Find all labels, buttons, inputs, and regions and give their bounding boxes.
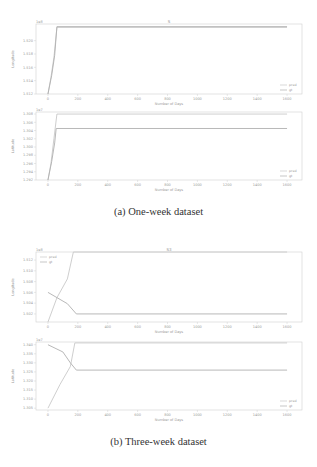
- x-tick-label: 1000: [193, 97, 202, 101]
- x-tick-label: 0: [47, 325, 49, 329]
- y-tick-label: 1.310: [23, 397, 33, 401]
- plot-frame: [36, 342, 302, 410]
- y-tick-label: 1.315: [23, 388, 33, 392]
- x-tick-label: 1400: [253, 183, 262, 187]
- y-tick-label: 1.340: [23, 343, 33, 347]
- series-gt: [48, 128, 287, 180]
- x-tick-label: 400: [104, 183, 111, 187]
- x-tick-label: 800: [164, 183, 171, 187]
- x-tick-label: 800: [164, 413, 171, 417]
- x-tick-label: 1400: [253, 97, 262, 101]
- x-tick-label: 1000: [193, 325, 202, 329]
- legend-pred: pred: [49, 255, 57, 259]
- axis-offset-label: 1e8: [36, 248, 43, 252]
- y-tick-label: 1.325: [23, 370, 33, 374]
- x-tick-label: 400: [104, 413, 111, 417]
- y-tick-label: 1.304: [23, 129, 34, 133]
- x-tick-label: 1200: [223, 97, 232, 101]
- y-tick-label: 1.305: [23, 406, 33, 410]
- x-tick-label: 200: [74, 97, 81, 101]
- caption-b: (b) Three-week dataset: [0, 436, 317, 447]
- series-pred: [48, 343, 287, 408]
- chart-title: S3: [166, 247, 172, 252]
- x-tick-label: 400: [104, 97, 111, 101]
- chart-a-top: S1e802004006008001000120014001600Number …: [0, 16, 317, 110]
- x-tick-label: 600: [134, 325, 141, 329]
- chart-b-top: S31e802004006008001000120014001600Number…: [0, 244, 317, 338]
- legend-gt: gt: [289, 404, 293, 408]
- y-tick-label: 1.512: [23, 258, 33, 262]
- axis-offset-label: 1e7: [36, 108, 43, 112]
- y-tick-label: 1.518: [23, 52, 33, 56]
- y-tick-label: 1.514: [23, 79, 34, 83]
- x-tick-label: 0: [47, 183, 49, 187]
- legend-pred: pred: [289, 169, 297, 173]
- plot-frame: [36, 252, 302, 322]
- legend-pred: pred: [289, 399, 297, 403]
- x-tick-label: 1200: [223, 413, 232, 417]
- legend-pred: pred: [289, 83, 297, 87]
- y-tick-label: 1.502: [23, 312, 33, 316]
- y-tick-label: 1.292: [23, 178, 33, 182]
- x-tick-label: 200: [74, 413, 81, 417]
- x-tick-label: 800: [164, 97, 171, 101]
- x-tick-label: 1600: [283, 183, 292, 187]
- caption-a: (a) One-week dataset: [0, 206, 317, 217]
- plot-frame: [36, 112, 302, 180]
- x-tick-label: 0: [47, 413, 49, 417]
- x-tick-label: 200: [74, 325, 81, 329]
- y-axis-label: Latitude: [11, 139, 15, 153]
- chart-a-bottom: 1e702004006008001000120014001600Number o…: [0, 104, 317, 196]
- y-axis-label: Longitude: [11, 50, 15, 67]
- x-axis-label: Number of Days: [155, 418, 184, 422]
- x-tick-label: 600: [134, 97, 141, 101]
- x-tick-label: 1200: [223, 325, 232, 329]
- x-tick-label: 1600: [283, 413, 292, 417]
- series-gt: [48, 345, 287, 370]
- x-tick-label: 1000: [193, 183, 202, 187]
- y-tick-label: 1.506: [23, 291, 33, 295]
- x-tick-label: 800: [164, 325, 171, 329]
- axis-offset-label: 1e7: [36, 338, 43, 342]
- x-tick-label: 1400: [253, 325, 262, 329]
- legend-gt: gt: [289, 88, 293, 92]
- y-tick-label: 1.300: [23, 145, 33, 149]
- x-axis-label: Number of Days: [155, 188, 184, 192]
- x-tick-label: 1600: [283, 97, 292, 101]
- x-tick-label: 600: [134, 413, 141, 417]
- x-tick-label: 600: [134, 183, 141, 187]
- y-tick-label: 1.296: [23, 162, 33, 166]
- y-axis-label: Longitude: [11, 278, 15, 295]
- series-gt: [48, 27, 287, 94]
- y-tick-label: 1.508: [23, 280, 33, 284]
- x-tick-label: 200: [74, 183, 81, 187]
- y-tick-label: 1.504: [23, 301, 34, 305]
- x-tick-label: 1000: [193, 413, 202, 417]
- x-tick-label: 1600: [283, 325, 292, 329]
- series-pred: [48, 27, 287, 94]
- series-pred: [48, 252, 287, 322]
- legend-gt: gt: [49, 260, 53, 264]
- y-tick-label: 1.330: [23, 361, 33, 365]
- y-tick-label: 1.520: [23, 39, 33, 43]
- x-tick-label: 0: [47, 97, 49, 101]
- series-pred: [48, 114, 287, 180]
- y-tick-label: 1.510: [23, 269, 33, 273]
- x-tick-label: 1200: [223, 183, 232, 187]
- y-tick-label: 1.320: [23, 379, 33, 383]
- y-tick-label: 1.298: [23, 153, 33, 157]
- y-tick-label: 1.306: [23, 121, 33, 125]
- x-tick-label: 400: [104, 325, 111, 329]
- y-tick-label: 1.302: [23, 137, 33, 141]
- legend-gt: gt: [289, 174, 293, 178]
- series-gt: [48, 292, 287, 314]
- y-axis-label: Latitude: [11, 369, 15, 383]
- y-tick-label: 1.308: [23, 112, 33, 116]
- plot-frame: [36, 24, 302, 94]
- y-tick-label: 1.512: [23, 92, 33, 96]
- y-tick-label: 1.294: [23, 170, 34, 174]
- y-tick-label: 1.516: [23, 66, 33, 70]
- y-tick-label: 1.335: [23, 352, 33, 356]
- chart-title: S: [168, 19, 171, 24]
- chart-b-bottom: 1e702004006008001000120014001600Number o…: [0, 334, 317, 426]
